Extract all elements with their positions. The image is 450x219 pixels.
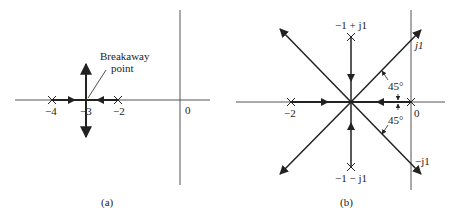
- tick-label: −3: [80, 105, 92, 117]
- annotation-text: point: [111, 62, 134, 74]
- axis-label: j1: [413, 39, 424, 51]
- tick-label: 0: [185, 104, 191, 116]
- arrow-left-icon: [96, 96, 104, 104]
- pole-label: −1 + j1: [335, 19, 367, 31]
- tick-label: −2: [284, 107, 296, 119]
- angle-label: 45°: [388, 80, 403, 92]
- panel-b: 45° 45° −1 + j1 −1 − j1 j1 −j1 −2 0 (b): [236, 10, 445, 209]
- angle-label: 45°: [388, 114, 403, 126]
- axis-label: −j1: [415, 155, 430, 167]
- arrow-down-icon: [347, 74, 355, 82]
- pole-label: −1 − j1: [335, 172, 367, 184]
- panel-caption: (b): [340, 196, 353, 209]
- tick-label: 0: [414, 107, 420, 119]
- angle-leader: [382, 71, 388, 80]
- arrow-up-icon: [347, 122, 355, 130]
- panel-a: Breakaway point −4 −3 −2 0 (a): [15, 10, 210, 209]
- root-locus-figure: Breakaway point −4 −3 −2 0 (a): [0, 0, 450, 219]
- arrow-left-icon: [376, 98, 384, 106]
- angle-leader: [382, 125, 388, 134]
- annotation-text: Breakaway: [100, 50, 150, 62]
- tick-label: −4: [45, 105, 57, 117]
- arrow-right-icon: [321, 98, 329, 106]
- asymptote-ul: [280, 29, 351, 102]
- tick-label: −2: [113, 105, 125, 117]
- panel-caption: (a): [101, 196, 114, 209]
- annotation-leader: [88, 70, 106, 98]
- arrow-right-icon: [68, 96, 76, 104]
